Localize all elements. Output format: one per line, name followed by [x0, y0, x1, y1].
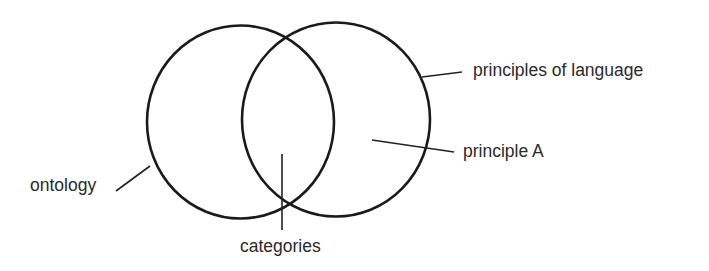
- principles-of-language-circle: [242, 23, 430, 217]
- ontology-leader-line: [116, 166, 150, 191]
- venn-diagram: ontology principles of language principl…: [0, 0, 709, 271]
- ontology-circle: [147, 26, 334, 219]
- categories-label: categories: [240, 236, 321, 256]
- ontology-label: ontology: [30, 175, 96, 195]
- principles-of-language-label: principles of language: [473, 60, 643, 80]
- principle-a-leader-line: [372, 140, 454, 152]
- principle-a-label: principle A: [463, 141, 544, 161]
- principles-of-language-leader-line: [422, 72, 462, 77]
